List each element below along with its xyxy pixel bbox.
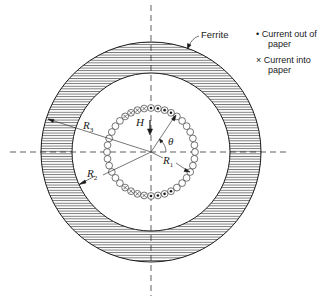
wire-conductor xyxy=(183,174,190,181)
dot-symbol-icon: • xyxy=(256,29,259,39)
r2-symbol: R xyxy=(87,167,94,179)
cross-symbol-icon: × xyxy=(256,55,261,65)
ferrite-label: Ferrite xyxy=(201,30,228,40)
legend-out-line1: Current out of xyxy=(262,29,317,39)
current-out-dot-icon xyxy=(150,107,153,110)
r3-symbol: R xyxy=(83,119,90,131)
wire-conductor xyxy=(191,155,198,162)
wire-conductor xyxy=(189,162,196,169)
current-out-dot-icon xyxy=(157,107,160,110)
current-out-dot-icon xyxy=(170,112,173,115)
legend-in-line2: paper xyxy=(256,66,311,76)
theta-symbol: θ xyxy=(168,135,173,147)
legend-current-out: • Current out of paper xyxy=(256,30,317,49)
r2-subscript: 2 xyxy=(94,174,98,182)
current-out-dot-icon xyxy=(170,190,173,193)
legend-in-line1: Current into xyxy=(264,55,311,65)
current-out-dot-icon xyxy=(150,195,153,198)
r3-label: R3 xyxy=(83,120,93,135)
wire-conductor xyxy=(108,129,115,136)
r1-label: R1 xyxy=(163,155,173,170)
wire-conductor xyxy=(104,142,111,149)
wire-conductor xyxy=(187,129,194,136)
wire-conductor xyxy=(104,155,111,162)
h-field-label: H xyxy=(136,117,144,127)
wire-conductor xyxy=(189,135,196,142)
wire-conductor xyxy=(106,162,113,169)
current-out-dot-icon xyxy=(157,194,160,197)
wire-conductor xyxy=(104,149,111,156)
legend-out-line2: paper xyxy=(256,40,317,50)
current-out-dot-icon xyxy=(163,109,166,112)
h-symbol: H xyxy=(136,116,144,128)
legend-current-in: × Current into paper xyxy=(256,56,311,75)
current-out-dot-icon xyxy=(163,193,166,196)
wire-conductor xyxy=(191,142,198,149)
r1-subscript: 1 xyxy=(170,161,174,169)
r1-symbol: R xyxy=(163,154,170,166)
theta-label: θ xyxy=(168,136,173,146)
r3-subscript: 3 xyxy=(90,126,94,134)
wire-conductor xyxy=(192,149,199,156)
r2-label: R2 xyxy=(87,168,97,183)
wire-conductor xyxy=(112,123,119,130)
